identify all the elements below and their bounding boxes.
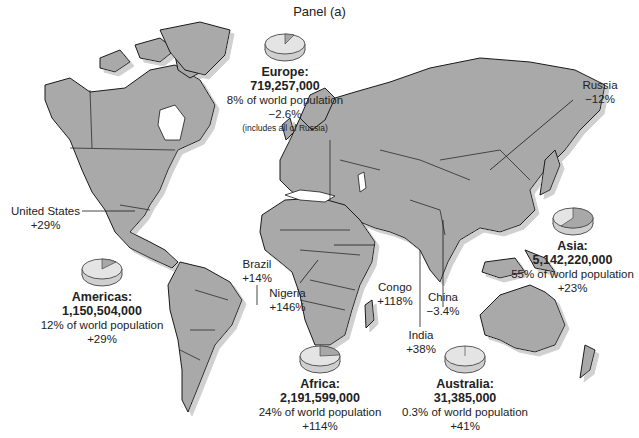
country-label-congo: Congo +118% — [370, 280, 420, 308]
region-africa: Africa: 2,191,599,000 24% of world popul… — [255, 345, 385, 433]
country-name: Russia — [570, 78, 630, 92]
region-americas: Americas: 1,150,504,000 12% of world pop… — [37, 258, 167, 346]
region-population: 2,191,599,000 — [255, 391, 385, 405]
country-name: India — [396, 328, 446, 342]
region-change: +41% — [400, 419, 530, 433]
country-change: −12% — [570, 92, 630, 106]
country-name: United States — [8, 204, 83, 218]
region-name: Australia: — [400, 377, 530, 391]
country-name: Nigeria — [260, 286, 315, 300]
region-change: +29% — [37, 332, 167, 346]
country-name: China — [418, 290, 468, 304]
pie-chart-asia — [551, 207, 595, 237]
region-name: Europe: — [225, 65, 345, 79]
country-label-russia: Russia −12% — [570, 78, 630, 106]
region-europe: Europe: 719,257,000 8% of world populati… — [225, 33, 345, 135]
region-name: Africa: — [255, 377, 385, 391]
country-label-united-states: United States +29% — [8, 204, 83, 232]
country-change: +29% — [8, 218, 83, 232]
region-australia: Australia: 31,385,000 0.3% of world popu… — [400, 345, 530, 433]
region-note: (includes all of Russia) — [225, 121, 345, 135]
country-change: +38% — [396, 342, 446, 356]
country-label-china: China −3.4% — [418, 290, 468, 318]
region-population: 719,257,000 — [225, 79, 345, 93]
region-share: 55% of world population — [510, 267, 635, 281]
country-change: +146% — [260, 300, 315, 314]
country-name: Congo — [370, 280, 420, 294]
region-share: 24% of world population — [255, 405, 385, 419]
country-change: +14% — [232, 271, 282, 285]
region-asia: Asia: 5,142,220,000 55% of world populat… — [510, 207, 635, 295]
country-label-nigeria: Nigeria +146% — [260, 286, 315, 314]
pie-chart-americas — [80, 258, 124, 288]
pie-chart-africa — [298, 345, 342, 375]
country-label-brazil: Brazil +14% — [232, 257, 282, 285]
region-name: Asia: — [510, 239, 635, 253]
region-change: +114% — [255, 419, 385, 433]
region-change: +23% — [510, 281, 635, 295]
region-share: 8% of world population — [225, 93, 345, 107]
region-population: 5,142,220,000 — [510, 253, 635, 267]
north-america-landmass — [45, 65, 215, 268]
region-population: 1,150,504,000 — [37, 304, 167, 318]
country-name: Brazil — [232, 257, 282, 271]
region-share: 0.3% of world population — [400, 405, 530, 419]
region-share: 12% of world population — [37, 318, 167, 332]
pie-chart-europe — [263, 33, 307, 63]
region-population: 31,385,000 — [400, 391, 530, 405]
pie-chart-australia — [443, 345, 487, 375]
country-change: +118% — [370, 294, 420, 308]
country-change: −3.4% — [418, 304, 468, 318]
region-change: −2.6% — [225, 107, 345, 121]
australia-landmass — [480, 285, 565, 352]
country-label-india: India +38% — [396, 328, 446, 356]
south-america-landmass — [168, 262, 242, 412]
region-name: Americas: — [37, 290, 167, 304]
